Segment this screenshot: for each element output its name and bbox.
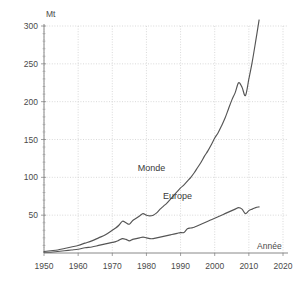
horizontal-gridlines [44,26,288,215]
x-tick-label: 1970 [103,261,122,271]
series-label-europe: Europe [163,191,192,201]
series-label-monde: Monde [138,163,166,173]
x-tick-label: 1960 [69,261,88,271]
y-axis-unit-label: Mt [46,9,56,19]
x-tick-label: 2000 [205,261,224,271]
y-tick-label: 250 [24,59,38,69]
x-tick-label: 2020 [274,261,293,271]
x-tick-label: 1950 [35,261,54,271]
chart-canvas: 50100150200250300 1950196019701980199020… [0,0,300,286]
y-tick-label: 150 [24,135,38,145]
y-axis-tick-labels: 50100150200250300 [24,21,38,220]
y-tick-label: 200 [24,97,38,107]
x-tick-label: 1980 [137,261,156,271]
x-tick-label: 1990 [171,261,190,271]
x-axis-tick-labels: 19501960197019801990200020102020 [35,261,293,271]
y-tick-label: 300 [24,21,38,31]
production-line-chart: 50100150200250300 1950196019701980199020… [0,0,300,286]
x-axis-title-label: Année [257,241,282,251]
series-line-monde [44,20,259,252]
y-tick-label: 50 [29,210,39,220]
axis-tick-marks [41,26,283,256]
y-tick-label: 100 [24,172,38,182]
x-tick-label: 2010 [239,261,258,271]
